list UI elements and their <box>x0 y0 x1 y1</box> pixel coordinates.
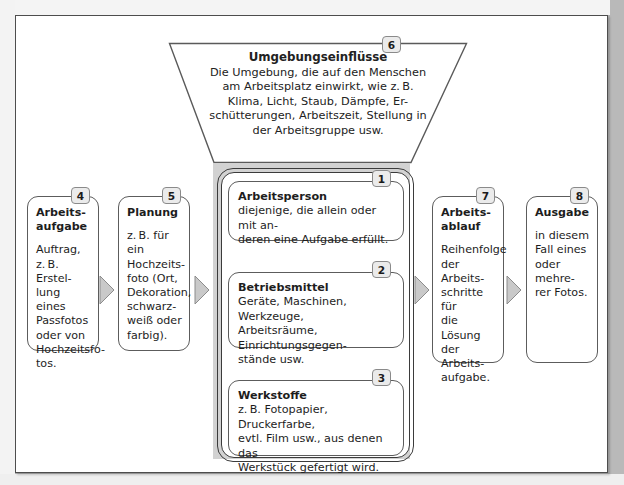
card-ausgabe-line-0: in diesem <box>535 229 590 243</box>
environment-title: Umgebungseinflüsse <box>168 50 468 65</box>
card-arbeitsablauf-line-3: die Lösung <box>441 314 496 342</box>
arrow-planung-to-system <box>194 275 210 305</box>
spacer <box>36 234 91 243</box>
card-arbeitsablauf-body: Arbeits- ablauf Reihenfolge der Arbeits-… <box>433 197 503 391</box>
environment-text: Umgebungseinflüsse Die Umgebung, die auf… <box>168 50 468 139</box>
card-betriebsmittel-title: Betriebsmittel <box>238 281 394 295</box>
card-werkstoffe-title: Werkstoffe <box>238 389 394 403</box>
spacer <box>441 234 496 243</box>
card-ausgabe-body: Ausgabe in diesem Fall eines oder mehre-… <box>527 197 597 306</box>
card-planung[interactable]: Planung z. B. für ein Hochzeits- foto (O… <box>118 196 190 351</box>
card-arbeitsaufgabe-line-3: Passfotos <box>36 314 91 328</box>
arrow-system-to-ablauf <box>414 275 430 305</box>
card-arbeitsablauf-title-0: Arbeits- <box>441 206 496 220</box>
diagram-canvas: Umgebungseinflüsse Die Umgebung, die auf… <box>0 0 624 485</box>
card-arbeitsaufgabe-line-2: lung eines <box>36 286 91 314</box>
card-betriebsmittel-line-0: Geräte, Maschinen, Werkzeuge, <box>238 295 394 324</box>
badge-6[interactable]: 6 <box>382 36 401 53</box>
card-betriebsmittel-line-1: Arbeitsräume, Einrichtungsgegen- <box>238 324 394 353</box>
card-betriebsmittel-line-2: stände usw. <box>238 353 394 367</box>
card-planung-line-0: z. B. für ein <box>127 229 182 257</box>
environment-line-1: am Arbeitsplatz einwirkt, wie z. B. <box>222 80 413 93</box>
card-arbeitsaufgabe-title-1: aufgabe <box>36 220 91 234</box>
card-werkstoffe[interactable]: Werkstoffe z. B. Fotopapier, Druckerfarb… <box>228 380 404 456</box>
card-arbeitsablauf-line-1: der Arbeits- <box>441 258 496 286</box>
arrow-aufgabe-to-planung <box>99 275 115 305</box>
page-margin-top <box>0 0 624 15</box>
badge-5[interactable]: 5 <box>162 187 181 204</box>
page-margin-right <box>610 0 624 485</box>
card-arbeitsperson-line-1: deren eine Aufgabe erfüllt. <box>238 233 394 247</box>
card-ausgabe-line-1: Fall eines <box>535 243 590 257</box>
environment-line-2: Klima, Licht, Staub, Dämpfe, Er- <box>228 95 408 108</box>
badge-1[interactable]: 1 <box>372 170 391 187</box>
card-planung-line-3: Dekoration, <box>127 286 182 300</box>
badge-4[interactable]: 4 <box>71 187 90 204</box>
card-arbeitsablauf-line-4: der Arbeits- <box>441 343 496 371</box>
card-ausgabe[interactable]: Ausgabe in diesem Fall eines oder mehre-… <box>526 196 598 363</box>
environment-line-3: schütterungen, Arbeitszeit, Stellung in <box>209 109 426 122</box>
card-arbeitsablauf-title-1: ablauf <box>441 220 496 234</box>
environment-line-4: der Arbeitsgruppe usw. <box>252 124 383 137</box>
spacer <box>535 220 590 229</box>
spacer <box>127 220 182 229</box>
card-planung-title-0: Planung <box>127 206 182 220</box>
card-werkstoffe-line-1: evtl. Film usw., aus denen das <box>238 432 394 461</box>
card-arbeitsaufgabe-line-5: Hochzeitsfo- <box>36 343 91 357</box>
page-margin-left <box>0 0 15 485</box>
card-ausgabe-title-0: Ausgabe <box>535 206 590 220</box>
badge-7[interactable]: 7 <box>476 187 495 204</box>
card-arbeitsablauf-line-5: aufgabe. <box>441 371 496 385</box>
card-planung-line-1: Hochzeits- <box>127 258 182 272</box>
card-arbeitsaufgabe-title-0: Arbeits- <box>36 206 91 220</box>
card-planung-line-5: weiß oder <box>127 314 182 328</box>
card-arbeitsaufgabe-line-6: tos. <box>36 357 91 371</box>
badge-2[interactable]: 2 <box>372 261 391 278</box>
card-arbeitsablauf-line-2: schritte für <box>441 286 496 314</box>
card-werkstoffe-body: Werkstoffe z. B. Fotopapier, Druckerfarb… <box>229 381 403 481</box>
card-arbeitsablauf[interactable]: Arbeits- ablauf Reihenfolge der Arbeits-… <box>432 196 504 363</box>
badge-3[interactable]: 3 <box>372 369 391 386</box>
card-arbeitsperson-body: Arbeitsperson diejenige, die allein oder… <box>229 182 403 254</box>
card-ausgabe-line-2: oder mehre- <box>535 258 590 286</box>
card-arbeitsaufgabe-body: Arbeits- aufgabe Auftrag, z. B. Erstel- … <box>28 197 98 377</box>
card-arbeitsablauf-line-0: Reihenfolge <box>441 243 496 257</box>
card-arbeitsaufgabe[interactable]: Arbeits- aufgabe Auftrag, z. B. Erstel- … <box>27 196 99 351</box>
card-arbeitsperson-line-0: diejenige, die allein oder mit an- <box>238 204 394 233</box>
card-planung-body: Planung z. B. für ein Hochzeits- foto (O… <box>119 197 189 349</box>
arrow-ablauf-to-ausgabe <box>506 275 522 305</box>
card-ausgabe-line-3: rer Fotos. <box>535 286 590 300</box>
card-arbeitsaufgabe-line-4: oder von <box>36 329 91 343</box>
card-planung-line-4: schwarz- <box>127 300 182 314</box>
card-arbeitsperson-title: Arbeitsperson <box>238 190 394 204</box>
card-betriebsmittel[interactable]: Betriebsmittel Geräte, Maschinen, Werkze… <box>228 272 404 348</box>
badge-8[interactable]: 8 <box>570 187 589 204</box>
card-arbeitsaufgabe-line-0: Auftrag, <box>36 243 91 257</box>
card-arbeitsaufgabe-line-1: z. B. Erstel- <box>36 258 91 286</box>
card-arbeitsperson[interactable]: Arbeitsperson diejenige, die allein oder… <box>228 181 404 241</box>
card-werkstoffe-line-0: z. B. Fotopapier, Druckerfarbe, <box>238 403 394 432</box>
environment-line-0: Die Umgebung, die auf den Menschen <box>210 66 426 79</box>
card-planung-line-6: farbig). <box>127 329 182 343</box>
card-planung-line-2: foto (Ort, <box>127 272 182 286</box>
card-werkstoffe-line-2: Werkstück gefertigt wird. <box>238 461 394 475</box>
card-betriebsmittel-body: Betriebsmittel Geräte, Maschinen, Werkze… <box>229 273 403 373</box>
